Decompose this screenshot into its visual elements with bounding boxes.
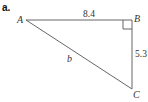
side-ac [26, 20, 132, 89]
vertex-b-label: B [134, 13, 140, 24]
side-ac-length: b [67, 53, 72, 64]
right-angle-marker [123, 20, 132, 29]
side-ab-length: 8.4 [83, 9, 95, 19]
triangle-edges [26, 20, 132, 89]
right-triangle-diagram: A B C 8.4 5.3 b [0, 0, 148, 102]
vertex-c-label: C [133, 89, 140, 100]
side-bc-length: 5.3 [135, 49, 147, 59]
vertex-a-label: A [16, 14, 24, 25]
